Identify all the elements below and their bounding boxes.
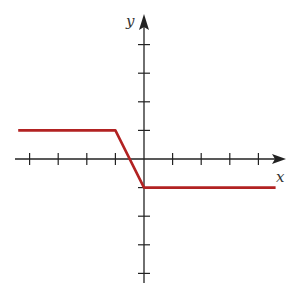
x-axis-label: x [276, 168, 285, 186]
y-axis-label: y [125, 12, 135, 30]
chart: x y [0, 0, 288, 283]
axes [15, 14, 286, 283]
